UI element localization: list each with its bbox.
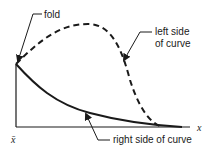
x-bar-label: x̄	[10, 134, 16, 145]
right-side-label: right side of curve	[113, 134, 192, 145]
diagram-canvas: fold left side of curve right side of cu…	[0, 0, 215, 152]
left-side-callout-arrow	[124, 32, 152, 60]
fold-label: fold	[44, 9, 60, 20]
fold-curve-diagram: fold left side of curve right side of cu…	[0, 0, 215, 152]
left-side-of-curve	[16, 24, 162, 127]
right-side-of-curve	[16, 64, 182, 127]
x-axis-label: x	[196, 122, 202, 133]
left-side-label-line2: of curve	[155, 38, 191, 49]
left-side-label-line1: left side	[155, 26, 190, 37]
fold-callout-arrow	[18, 14, 42, 61]
